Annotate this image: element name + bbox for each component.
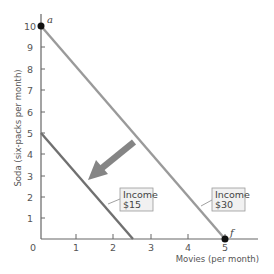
y-tick-label: 9: [27, 42, 33, 53]
x-tick-label: 1: [73, 242, 79, 253]
y-tick-label: 4: [27, 149, 33, 160]
income-15-leader: [108, 199, 120, 204]
y-tick-label: 8: [27, 64, 33, 75]
budget-line-chart: 1 2 3 4 5 6 7 8 9 10 0 1 2 3 4 5 Movies …: [0, 0, 274, 274]
x-tick-labels: 0 1 2 3 4 5: [30, 242, 228, 253]
x-tick-label: 5: [222, 242, 228, 253]
shift-arrow-icon: [88, 142, 134, 180]
x-tick-label: 3: [148, 242, 154, 253]
y-axis-title: Soda (six-packs per month): [13, 69, 23, 186]
y-tick-label: 7: [27, 85, 33, 96]
origin-label: 0: [30, 242, 36, 253]
income-15-label-line2: $15: [123, 199, 141, 210]
point-f-label: f: [229, 227, 236, 238]
budget-line-income-15: [41, 133, 133, 239]
x-ticks: [76, 234, 225, 239]
y-tick-label: 10: [24, 21, 36, 32]
y-tick-labels: 1 2 3 4 5 6 7 8 9 10: [24, 21, 36, 224]
y-tick-label: 3: [27, 171, 33, 182]
point-a-label: a: [47, 14, 53, 25]
income-30-leader: [201, 200, 212, 206]
x-tick-label: 2: [110, 242, 116, 253]
y-tick-label: 5: [27, 128, 33, 139]
y-tick-label: 2: [27, 192, 33, 203]
x-axis-title: Movies (per month): [176, 254, 259, 264]
income-30-label-line2: $30: [215, 199, 233, 210]
point-a: [38, 23, 45, 30]
point-f: [222, 236, 229, 243]
x-tick-label: 4: [185, 242, 191, 253]
y-tick-label: 6: [27, 107, 33, 118]
y-tick-label: 1: [27, 213, 33, 224]
